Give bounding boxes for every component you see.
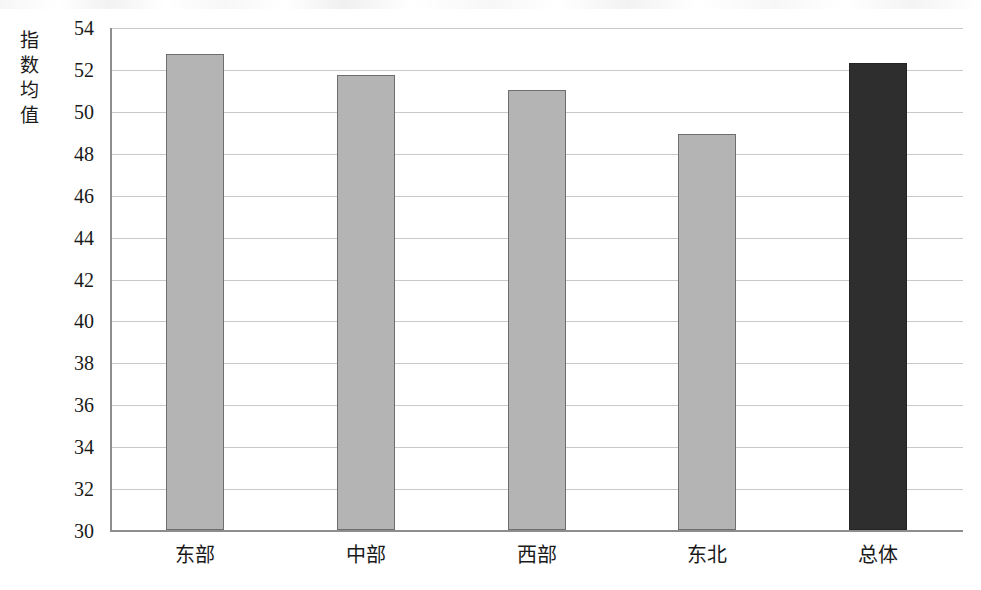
scan-edge-artifact (0, 0, 981, 9)
x-tick-label-东部: 东部 (125, 541, 265, 569)
bar-chart-figure: 指 数 均 值 54525048464442403836343230 东部中部西… (0, 0, 981, 590)
y-axis-title: 指 数 均 值 (14, 28, 44, 128)
x-tick-label-西部: 西部 (467, 541, 607, 569)
x-tick-label-东北: 东北 (637, 541, 777, 569)
y-axis-tick-labels: 54525048464442403836343230 (44, 0, 102, 590)
bar-西部 (508, 90, 566, 530)
bar-总体 (849, 63, 907, 530)
x-tick-label-总体: 总体 (808, 541, 948, 569)
y-tick-label-42: 42 (44, 270, 94, 290)
y-tick-label-50: 50 (44, 102, 94, 122)
x-tick-label-中部: 中部 (296, 541, 436, 569)
y-tick-label-46: 46 (44, 186, 94, 206)
y-tick-label-36: 36 (44, 395, 94, 415)
y-tick-label-52: 52 (44, 60, 94, 80)
bar-东北 (678, 134, 736, 530)
y-tick-label-32: 32 (44, 479, 94, 499)
bars-layer (110, 28, 963, 531)
y-tick-label-44: 44 (44, 228, 94, 248)
y-tick-label-38: 38 (44, 353, 94, 373)
bar-东部 (166, 54, 224, 530)
y-tick-label-40: 40 (44, 311, 94, 331)
x-axis-tick-labels: 东部中部西部东北总体 (110, 541, 963, 581)
y-tick-label-48: 48 (44, 144, 94, 164)
y-tick-label-54: 54 (44, 18, 94, 38)
y-tick-label-34: 34 (44, 437, 94, 457)
y-tick-label-30: 30 (44, 521, 94, 541)
plot-area (110, 28, 963, 531)
bar-中部 (337, 75, 395, 530)
